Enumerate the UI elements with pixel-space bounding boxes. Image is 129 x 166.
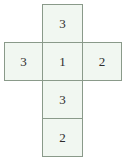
net-cell-lower: 3: [42, 80, 83, 119]
net-cell-middle-left-value: 3: [20, 55, 27, 68]
net-cell-top: 3: [42, 4, 83, 43]
net-cell-lower-value: 3: [59, 93, 66, 106]
net-cell-bottom: 2: [42, 118, 83, 157]
net-cell-middle-center: 1: [42, 42, 83, 81]
net-cell-top-value: 3: [59, 17, 66, 30]
net-cell-middle-right-value: 2: [99, 55, 106, 68]
net-cell-middle-right: 2: [82, 42, 122, 81]
net-cell-middle-center-value: 1: [59, 55, 66, 68]
net-cell-middle-left: 3: [4, 42, 43, 81]
cube-net-figure: 3 3 1 2 3 2: [0, 0, 129, 166]
net-cell-bottom-value: 2: [59, 131, 66, 144]
